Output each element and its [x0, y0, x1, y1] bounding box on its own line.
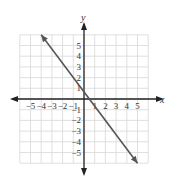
y-tick-label: 3	[77, 62, 82, 72]
y-tick-label: −1	[71, 105, 81, 115]
arrow-left-icon	[10, 96, 18, 102]
y-axis-label: y	[80, 12, 86, 23]
arrow-down-icon	[81, 168, 87, 176]
coordinate-plane: −5−4−3−2−11234554321−1−2−3−4−5 x y	[0, 0, 174, 180]
y-tick-label: −2	[71, 115, 81, 125]
arrow-up-icon	[81, 22, 87, 30]
x-tick-label: 3	[114, 101, 119, 111]
y-tick-label: −4	[71, 137, 81, 147]
y-tick-label: −5	[71, 148, 81, 158]
x-tick-label: −4	[36, 101, 46, 111]
y-tick-label: 5	[77, 41, 82, 51]
y-tick-label: 2	[77, 73, 82, 83]
x-tick-label: −2	[58, 101, 68, 111]
y-tick-label: −3	[71, 126, 81, 136]
x-tick-label: −5	[26, 101, 36, 111]
x-axis-label: x	[159, 94, 165, 105]
x-tick-label: 2	[103, 101, 108, 111]
x-tick-label: −3	[47, 101, 57, 111]
y-tick-label: 4	[77, 51, 82, 61]
x-tick-label: 5	[135, 101, 140, 111]
x-tick-label: 4	[125, 101, 130, 111]
